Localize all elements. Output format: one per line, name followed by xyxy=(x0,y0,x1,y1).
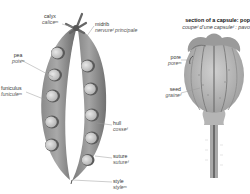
label-midrib: midrib nervureᶠ principale xyxy=(95,21,137,33)
title-fr: coupeᶠ d'une capsuleᶠ : pavo xyxy=(182,24,250,31)
label-calyx: calyx caliceᵐ xyxy=(42,13,58,25)
label-fr: poreᵐ xyxy=(160,60,181,66)
label-fr: sutureᶠ xyxy=(113,159,128,165)
label-fr: funiculeᵐ xyxy=(1,91,21,97)
label-funiculus: funiculus funiculeᵐ xyxy=(1,85,21,97)
label-style: style styleᵐ xyxy=(113,178,126,190)
label-hull: hull cosseᶠ xyxy=(113,120,128,132)
label-fr: caliceᵐ xyxy=(42,19,58,25)
capsule-section-title: section of a capsule: pop coupeᶠ d'une c… xyxy=(182,17,250,30)
label-fr: nervureᶠ principale xyxy=(95,27,137,33)
label-fr: styleᵐ xyxy=(113,184,126,190)
label-fr: poisᵐ xyxy=(12,58,24,64)
label-pore: pore poreᵐ xyxy=(160,54,181,66)
pea-pod-icon xyxy=(41,14,106,184)
label-suture: suture sutureᶠ xyxy=(113,153,128,165)
title-en: section of a capsule: pop xyxy=(182,17,250,24)
label-fr: cosseᶠ xyxy=(113,126,128,132)
label-pea: pea poisᵐ xyxy=(12,52,24,64)
capsule-section-icon xyxy=(184,34,244,179)
label-seed: seed graineᶠ xyxy=(158,86,181,98)
diagram-stage: calyx caliceᵐ midrib nervureᶠ principale… xyxy=(0,0,250,194)
label-fr: graineᶠ xyxy=(158,92,181,98)
